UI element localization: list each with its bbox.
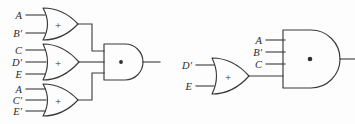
or-gate-1-symbol: + [55,19,61,31]
circuit-diagram-canvas: + A B′ + C D′ E + A C′ E′ [0,0,355,124]
or-gate-2-symbol: + [55,57,61,69]
or-gate-3: + [43,84,78,116]
or-gate-4-symbol: + [225,71,231,83]
or-gate-2: + [43,44,79,80]
and-gate-1-dot [119,60,123,64]
input-label-or1-a: A [15,10,23,21]
and-gate-1-body [104,44,143,80]
and-gate-2-dot [308,57,313,62]
input-label-or4-dnot: D′ [181,60,193,71]
input-label-and2-bnot: B′ [253,47,262,58]
input-label-and2-c: C [255,59,263,70]
wire-or1-to-and1 [78,24,104,51]
input-label-or3-a: A [15,84,23,95]
and-gate-1 [104,44,143,80]
input-label-or3-enot: E′ [12,106,22,117]
input-label-or1-bnot: B′ [13,28,22,39]
input-label-or2-c: C [15,45,23,56]
input-label-or3-cnot: C′ [13,95,23,106]
input-label-or4-e: E [185,81,193,92]
or-gate-1: + [43,8,78,40]
or-gate-3-symbol: + [55,95,61,107]
input-label-or2-e: E [15,69,23,80]
input-label-or2-dnot: D′ [11,57,23,68]
wire-or3-to-and1 [78,73,104,100]
input-label-and2-a: A [255,35,263,46]
or-gate-4: + [212,58,249,94]
and-gate-2 [283,30,340,88]
